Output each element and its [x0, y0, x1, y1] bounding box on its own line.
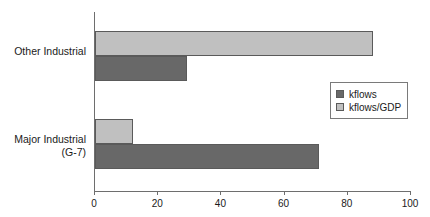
x-tick-label: 100: [402, 198, 419, 210]
x-tick-mark: [157, 191, 158, 195]
legend-swatch-kflows-gdp-icon: [336, 103, 344, 111]
legend-item-kflows-gdp: kflows/GDP: [336, 101, 401, 113]
x-tick-label: 60: [278, 198, 289, 210]
legend-item-kflows: kflows: [336, 88, 401, 100]
x-tick-label: 80: [341, 198, 352, 210]
x-tick-mark: [347, 191, 348, 195]
legend-label-kflows: kflows: [349, 89, 377, 100]
legend-swatch-kflows-icon: [336, 90, 344, 98]
bar-chart: 020406080100 Other Industrial Major Indu…: [0, 0, 430, 217]
x-tick-mark: [94, 191, 95, 195]
x-tick-mark: [220, 191, 221, 195]
category-label-other-industrial: Other Industrial: [0, 45, 86, 58]
legend-label-kflows-gdp: kflows/GDP: [349, 102, 401, 113]
x-tick-label: 40: [215, 198, 226, 210]
category-label-major-industrial: Major Industrial (G-7): [0, 133, 86, 159]
bar-kflows: [95, 144, 319, 169]
bar-kflows: [95, 56, 187, 81]
bar-kflows-gdp: [95, 31, 373, 56]
x-tick-label: 20: [152, 198, 163, 210]
x-tick-mark: [284, 191, 285, 195]
x-tick-label: 0: [91, 198, 97, 210]
x-tick-mark: [410, 191, 411, 195]
chart-legend: kflows kflows/GDP: [330, 82, 408, 119]
x-axis-line: [94, 191, 410, 192]
bar-kflows-gdp: [95, 119, 133, 144]
